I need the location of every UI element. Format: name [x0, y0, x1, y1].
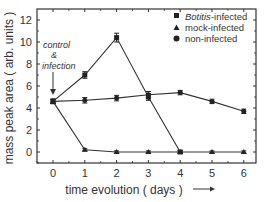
annotation-line-1: control — [43, 40, 71, 50]
square-marker-icon — [82, 73, 87, 78]
circle-marker-icon — [146, 92, 151, 97]
circle-marker-icon — [210, 99, 215, 104]
y-tick-label: 0 — [26, 146, 32, 158]
y-tick-label: 8 — [26, 58, 32, 70]
y-tick-label: 4 — [26, 102, 32, 114]
x-tick-label: 0 — [50, 167, 56, 179]
legend-item-mock: mock-infected — [185, 22, 244, 33]
x-tick-label: 2 — [114, 167, 120, 179]
circle-marker-icon — [114, 96, 119, 101]
legend: Botitis-infected mock-infected non-infec… — [174, 11, 248, 44]
legend-square-icon — [174, 13, 179, 18]
series-circle — [51, 90, 247, 114]
legend-item-non-infected: non-infected — [185, 33, 237, 44]
circle-marker-icon — [241, 109, 246, 114]
legend-label-italic: Botitis — [185, 11, 211, 22]
legend-triangle-icon — [174, 25, 180, 31]
data-series — [50, 33, 247, 154]
y-tick-label: 6 — [26, 80, 32, 92]
series-triangle — [50, 98, 247, 154]
x-axis-arrow-icon — [193, 187, 215, 192]
line-chart: 024681012 0123456 control & infection Bo… — [0, 0, 264, 202]
y-axis-label: mass peak area ( arb. units ) — [2, 12, 16, 165]
legend-circle-icon — [174, 36, 180, 42]
annotation-line-2: & — [51, 50, 57, 60]
y-tick-label: 10 — [20, 36, 32, 48]
x-tick-label: 4 — [177, 167, 183, 179]
x-tick-label: 6 — [241, 167, 247, 179]
x-tick-label: 3 — [145, 167, 151, 179]
arrow-head-icon — [50, 89, 56, 95]
legend-item-botrytis: Botitis-infected — [185, 11, 247, 22]
y-tick-label: 12 — [20, 14, 32, 26]
circle-marker-icon — [82, 98, 87, 103]
circle-marker-icon — [51, 99, 56, 104]
x-axis-label: time evolution ( days ) — [65, 183, 182, 197]
x-tick-label: 5 — [209, 167, 215, 179]
y-tick-label: 2 — [26, 124, 32, 136]
square-marker-icon — [114, 35, 119, 40]
circle-marker-icon — [178, 90, 183, 95]
annotation-line-3: infection — [42, 61, 76, 71]
x-tick-label: 1 — [82, 167, 88, 179]
legend-label-rest: -infected — [211, 11, 247, 22]
